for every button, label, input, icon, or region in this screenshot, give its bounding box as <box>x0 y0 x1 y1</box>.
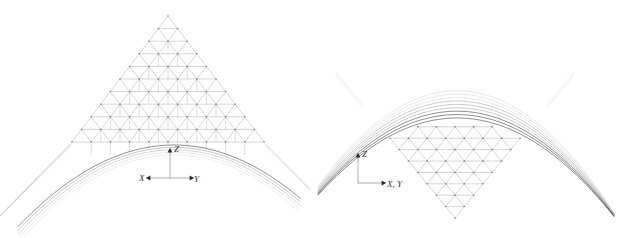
panel-section-view-funnel: ZX, Y <box>310 0 620 238</box>
arch-curve-4 <box>18 155 300 238</box>
funnel-edge-extension-3 <box>548 75 574 107</box>
arch-curve-2 <box>18 150 300 235</box>
shell-edge-tail-4 <box>265 144 310 218</box>
figure-canvas: ZXY ZX, Y <box>0 0 620 238</box>
shell-edge-tail-2 <box>0 146 70 217</box>
lattice-nodes-right <box>389 126 521 219</box>
xy-axis-label: X, Y <box>386 179 403 189</box>
funnel-edge-extension-0 <box>336 72 362 104</box>
z-axis-arrow-icon <box>168 148 173 153</box>
shell-edge-tail-0 <box>0 142 72 218</box>
funnel-edge-extension-2 <box>336 75 362 107</box>
catenary-curve-group-right <box>318 72 614 216</box>
arch-curve-3 <box>18 152 300 238</box>
catenary-curve-1 <box>318 115 614 217</box>
arch-curve-0 <box>18 145 300 227</box>
shell-edge-tail-3 <box>264 142 310 218</box>
catenary-curve-4 <box>318 104 614 214</box>
lattice-mesh-left <box>72 16 264 155</box>
panel-elevation-view-arch: ZXY <box>0 0 310 238</box>
arch-curve-group-left <box>0 142 310 238</box>
y-axis-label: Y <box>194 174 200 184</box>
x-axis-arrow-icon <box>146 176 151 181</box>
arch-curve-1 <box>18 147 300 230</box>
axis-triad-right: ZX, Y <box>356 149 403 189</box>
shell-edge-tail-1 <box>0 144 71 218</box>
x-axis-label: X <box>138 173 145 183</box>
catenary-curve-3 <box>318 108 614 216</box>
funnel-edge-extension-1 <box>548 72 574 104</box>
xy-axis-arrow-icon <box>382 181 387 186</box>
catenary-curve-0 <box>318 118 614 217</box>
